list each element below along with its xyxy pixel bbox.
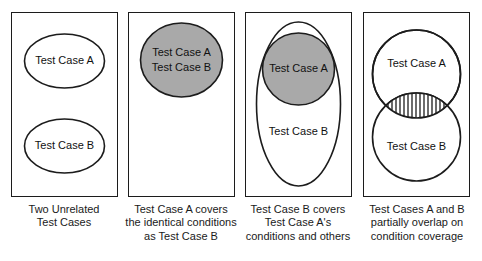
circle-test-case-a-label: Test Case A bbox=[387, 57, 446, 69]
panel-unrelated-diagram: Test Case A Test Case B bbox=[11, 12, 118, 197]
caption-panel-partial-overlap: Test Cases A and B partially overlap on … bbox=[354, 203, 480, 243]
ellipse-test-case-a-inner-label: Test Case A bbox=[269, 62, 328, 74]
caption-panel-identical: Test Case A covers the identical conditi… bbox=[118, 203, 244, 243]
circle-test-case-b-label: Test Case B bbox=[387, 140, 446, 152]
panel-partial-overlap-diagram: Test Case A Test Case B bbox=[363, 12, 470, 197]
ellipse-test-case-a-label: Test Case A bbox=[35, 54, 94, 66]
ellipse-test-case-b-outer-label: Test Case B bbox=[269, 125, 328, 137]
panel-partial-overlap: Test Case A Test Case B bbox=[363, 12, 470, 197]
caption-panel-subset: Test Case B covers Test Case A's conditi… bbox=[235, 203, 361, 243]
figure-panels-container: Test Case A Test Case B Test Case A Test… bbox=[0, 0, 482, 261]
ellipse-test-case-ab-label-b: Test Case B bbox=[152, 61, 211, 73]
ellipse-test-case-ab-label-a: Test Case A bbox=[152, 46, 211, 58]
panel-identical-diagram: Test Case A Test Case B bbox=[128, 12, 235, 197]
panel-subset: Test Case A Test Case B bbox=[245, 12, 352, 197]
caption-panel-unrelated: Two Unrelated Test Cases bbox=[1, 203, 127, 230]
panel-identical: Test Case A Test Case B bbox=[128, 12, 235, 197]
ellipse-test-case-b-label: Test Case B bbox=[35, 139, 94, 151]
panel-subset-diagram: Test Case A Test Case B bbox=[245, 12, 352, 197]
panel-unrelated: Test Case A Test Case B bbox=[11, 12, 118, 197]
